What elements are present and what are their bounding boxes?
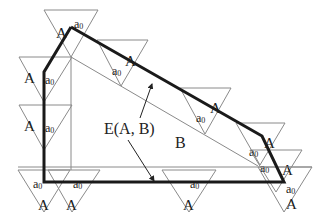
triangle-a: Aa0: [162, 170, 216, 213]
triangle-a: Aa0: [48, 170, 100, 213]
region-b-label: B: [175, 134, 186, 151]
ref-point-label-a0: a0: [286, 182, 295, 196]
triangle-a: Aa0: [44, 10, 98, 57]
ref-point-label-a0: a0: [45, 73, 54, 87]
triangle-label-A: A: [38, 197, 49, 213]
construction-line: [71, 57, 258, 166]
labels: E(A, B) B: [104, 120, 186, 151]
triangle-a: Aa0: [236, 123, 285, 165]
triangle-label-A: A: [24, 118, 35, 134]
ref-point-label-a0: a0: [196, 111, 205, 125]
triangle-label-A: A: [286, 196, 297, 212]
leader-arrow: [128, 140, 154, 181]
triangle-label-A: A: [24, 70, 35, 86]
triangle-outline: [236, 123, 285, 165]
triangle-label-A: A: [183, 197, 194, 213]
construction-lines: [18, 57, 312, 170]
ref-point-label-a0: a0: [249, 145, 258, 159]
triangle-outline: [44, 10, 98, 57]
ref-point-label-a0: a0: [33, 177, 42, 191]
triangle-label-A: A: [282, 162, 293, 178]
polygon-B-boundary: [44, 27, 284, 182]
ref-point-label-a0: a0: [190, 177, 199, 191]
ref-point-label-a0: a0: [45, 121, 54, 135]
edge-set-label: E(A, B): [104, 120, 155, 138]
polygon-b-edge: [44, 27, 284, 182]
triangle-label-A: A: [66, 197, 77, 213]
leader-arrow: [140, 84, 152, 118]
ref-point-label-a0: a0: [112, 64, 121, 78]
ref-point-label-a0: a0: [73, 177, 82, 191]
diagram-canvas: Aa0Aa0Aa0Aa0Aa0Aa0Aa0Aa0Aa0Aa0Aa0 E(A, B…: [0, 0, 326, 224]
